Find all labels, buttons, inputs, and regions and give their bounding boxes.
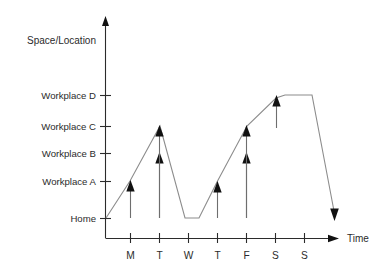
x-label-fri: F xyxy=(243,250,249,261)
x-label-wed: W xyxy=(184,250,194,261)
return-home-arrowhead xyxy=(330,209,339,222)
location-trace-line xyxy=(106,95,334,218)
y-label-home: Home xyxy=(70,213,96,224)
x-axis-arrowhead xyxy=(328,235,339,242)
commute-arrows-group xyxy=(126,95,280,218)
x-label-tue: T xyxy=(156,250,162,261)
y-axis-labels: Workplace D Workplace C Workplace B Work… xyxy=(27,35,97,224)
y-label-workplace-a: Workplace A xyxy=(42,176,96,187)
arrow-tue-workplace-c xyxy=(155,125,163,218)
x-label-sat: S xyxy=(272,250,279,261)
y-axis-arrowhead xyxy=(102,16,109,26)
y-label-workplace-c: Workplace C xyxy=(41,121,96,132)
y-label-workplace-d: Workplace D xyxy=(41,90,96,101)
diagram-figure: Workplace D Workplace C Workplace B Work… xyxy=(0,0,381,279)
x-label-thu: T xyxy=(214,250,220,261)
axes-group xyxy=(102,16,339,242)
location-trace-group xyxy=(106,95,339,221)
y-axis-title: Space/Location xyxy=(27,35,96,46)
y-label-workplace-b: Workplace B xyxy=(42,148,96,159)
x-label-sun: S xyxy=(301,250,308,261)
arrow-fri-workplace-c xyxy=(242,125,250,218)
x-label-mon: M xyxy=(126,250,135,261)
chart-canvas: Workplace D Workplace C Workplace B Work… xyxy=(0,0,381,279)
x-axis-title: Time xyxy=(347,233,369,244)
